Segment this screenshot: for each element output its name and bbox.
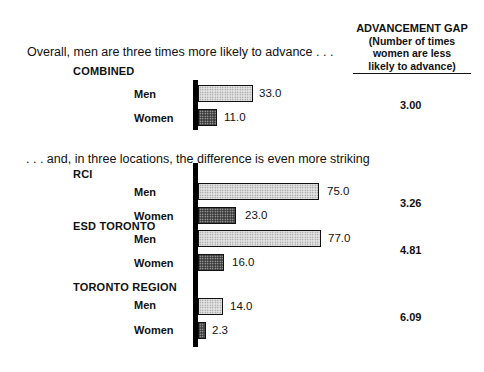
- gap-column-line1: (Number of times: [353, 35, 471, 48]
- gap-value-esd-toronto: 4.81: [400, 244, 421, 256]
- gap-value-rci: 3.26: [400, 197, 421, 209]
- group-title-combined: COMBINED: [73, 65, 135, 77]
- bar-toronto-region-men: [198, 298, 223, 315]
- gap-column-line3: likely to advance): [353, 60, 471, 75]
- value-rci-women: 23.0: [245, 209, 267, 221]
- value-combined-men: 33.0: [259, 87, 281, 99]
- gap-column-title: ADVANCEMENT GAP: [353, 22, 471, 35]
- row-label-men: Men: [134, 186, 194, 198]
- gap-value-combined: 3.00: [400, 99, 421, 111]
- row-label-women: Women: [134, 257, 194, 269]
- row-label-men: Men: [134, 88, 194, 100]
- group-title-toronto-region: TORONTO REGION: [73, 281, 177, 293]
- gap-column-header: ADVANCEMENT GAP (Number of times women a…: [353, 22, 471, 74]
- value-rci-men: 75.0: [327, 185, 349, 197]
- bar-rci-men: [198, 183, 319, 200]
- value-toronto-region-women: 2.3: [212, 324, 228, 336]
- gap-column-line2: women are less: [353, 47, 471, 60]
- bar-esd-toronto-men: [198, 230, 321, 247]
- row-label-women: Women: [134, 112, 194, 124]
- value-esd-toronto-women: 16.0: [232, 256, 254, 268]
- row-label-men: Men: [134, 233, 194, 245]
- bar-rci-women: [198, 207, 236, 224]
- value-esd-toronto-men: 77.0: [328, 232, 350, 244]
- bar-combined-men: [198, 85, 253, 102]
- bar-combined-women: [198, 109, 217, 126]
- gap-value-toronto-region: 6.09: [400, 311, 421, 323]
- bar-esd-toronto-women: [198, 254, 224, 271]
- value-toronto-region-men: 14.0: [230, 300, 252, 312]
- group-title-esd-toronto: ESD TORONTO: [73, 220, 155, 232]
- row-label-men: Men: [134, 299, 194, 311]
- bar-toronto-region-women: [198, 322, 206, 339]
- group-title-rci: RCI: [73, 168, 93, 180]
- row-label-women: Women: [134, 324, 194, 336]
- intro-overall: Overall, men are three times more likely…: [27, 45, 333, 59]
- value-combined-women: 11.0: [224, 111, 246, 123]
